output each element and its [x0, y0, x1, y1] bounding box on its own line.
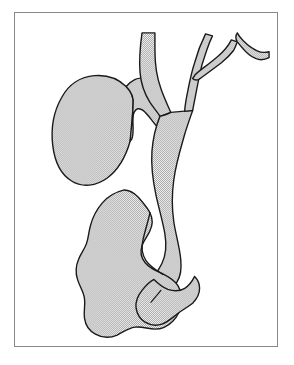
- common-bile-duct-shape: [152, 110, 193, 290]
- figure-root: [0, 0, 294, 365]
- gallbladder-group: [52, 75, 133, 185]
- anatomy-illustration: [15, 13, 277, 346]
- biliary-trunk-group: [140, 33, 269, 291]
- lateral-hepatic-branch-shape: [236, 33, 269, 60]
- figure-frame: [14, 12, 278, 347]
- gallbladder-shape: [52, 75, 133, 185]
